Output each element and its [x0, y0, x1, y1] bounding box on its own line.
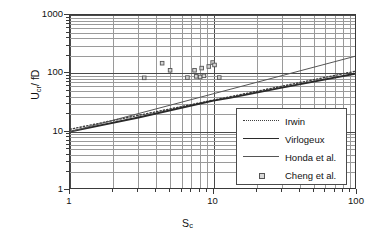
x-tick-minor: [169, 189, 170, 192]
y-axis-title: Ucr/ fD: [29, 45, 42, 125]
data-point-marker: [207, 65, 211, 69]
legend-label-virlogeux: Virlogeux: [281, 134, 324, 145]
x-tick-minor: [334, 189, 335, 192]
legend-item-irwin: Irwin: [241, 112, 342, 130]
legend-key-thick-line-icon: [241, 132, 281, 146]
chart-figure: Ucr/ fD Sc 1101001000110100 Irwin Virlog…: [0, 0, 375, 236]
data-point-marker: [217, 76, 221, 80]
legend-label-irwin: Irwin: [281, 116, 305, 127]
x-tick-label: 100: [331, 196, 375, 206]
y-axis-title-tail: / fD: [29, 70, 41, 86]
legend-key-thin-line-icon: [241, 150, 281, 164]
x-axis-title-subscript: c: [189, 221, 193, 230]
data-point-marker: [194, 75, 198, 79]
x-tick-label: 10: [188, 196, 238, 206]
x-tick-major: [69, 189, 70, 194]
x-axis-title: Sc: [0, 217, 375, 230]
legend-key-square-marker-icon: [241, 168, 281, 182]
x-tick-minor: [349, 189, 350, 192]
data-point-marker: [202, 74, 206, 78]
data-point-marker: [168, 68, 172, 72]
legend-key-dotted-icon: [241, 114, 281, 128]
x-tick-minor: [324, 189, 325, 192]
x-tick-minor: [281, 189, 282, 192]
x-tick-minor: [112, 189, 113, 192]
legend-label-cheng: Cheng et al.: [281, 170, 336, 181]
legend-item-cheng: Cheng et al.: [241, 166, 342, 184]
y-tick-label: 1: [58, 184, 63, 194]
legend-item-virlogeux: Virlogeux: [241, 130, 342, 148]
x-tick-major: [356, 189, 357, 194]
x-tick-minor: [313, 189, 314, 192]
y-tick-label: 1000: [42, 9, 63, 19]
y-tick-label: 10: [52, 126, 63, 136]
data-point-marker: [213, 63, 217, 67]
x-tick-minor: [256, 189, 257, 192]
data-point-marker: [200, 66, 204, 70]
data-point-marker: [142, 76, 146, 80]
data-point-marker: [186, 76, 190, 80]
x-tick-major: [213, 189, 214, 194]
data-point-marker: [198, 75, 202, 79]
data-point-marker: [193, 68, 197, 72]
x-tick-minor: [342, 189, 343, 192]
x-tick-minor: [155, 189, 156, 192]
legend-item-honda: Honda et al.: [241, 148, 342, 166]
x-tick-minor: [206, 189, 207, 192]
y-axis-title-subscript: cr: [34, 86, 43, 92]
x-tick-label: 1: [44, 196, 94, 206]
x-tick-minor: [199, 189, 200, 192]
x-tick-minor: [181, 189, 182, 192]
chart-legend: Irwin Virlogeux Honda et al. Cheng et al…: [236, 108, 347, 185]
y-tick-label: 100: [47, 67, 63, 77]
data-point-marker: [160, 61, 164, 65]
x-tick-minor: [137, 189, 138, 192]
legend-label-honda: Honda et al.: [281, 152, 336, 163]
x-tick-minor: [190, 189, 191, 192]
x-tick-minor: [299, 189, 300, 192]
y-axis-title-base: U: [29, 92, 41, 100]
